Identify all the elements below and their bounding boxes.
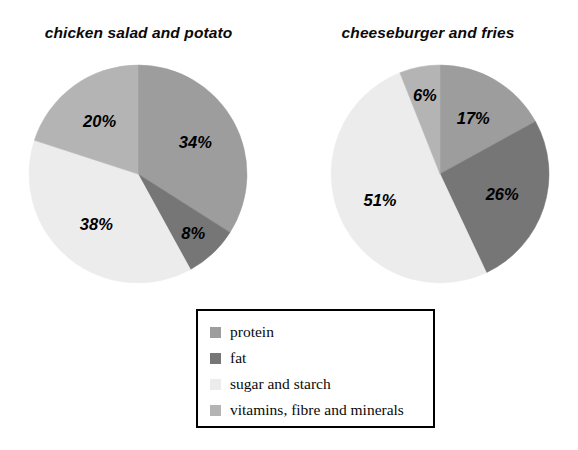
legend-item-label: fat [230,350,246,366]
pie-chart-chicken-salad-and-potato: 34%8%38%20% [28,64,248,284]
legend-swatch-icon [210,405,221,416]
legend-item: vitamins, fibre and minerals [210,397,427,423]
legend-item-label: protein [230,324,274,340]
legend-swatch-icon [210,353,221,364]
pie-svg-right [330,64,550,284]
legend-swatch-icon [210,327,221,338]
legend-item-label: sugar and starch [230,376,331,392]
pie-svg-left [28,64,248,284]
pie-chart-title-right: cheeseburger and fries [300,24,556,42]
legend-item: fat [210,345,427,371]
pie-chart-cheeseburger-and-fries: 17%26%51%6% [330,64,550,284]
figure-canvas: chicken salad and potato cheeseburger an… [0,0,578,450]
legend-item-label: vitamins, fibre and minerals [230,402,404,418]
legend-item: sugar and starch [210,371,427,397]
pie-chart-title-left: chicken salad and potato [0,24,277,42]
legend-swatch-icon [210,379,221,390]
legend-item: protein [210,319,427,345]
legend-list: proteinfatsugar and starchvitamins, fibr… [210,319,427,423]
legend-box: proteinfatsugar and starchvitamins, fibr… [196,309,435,428]
